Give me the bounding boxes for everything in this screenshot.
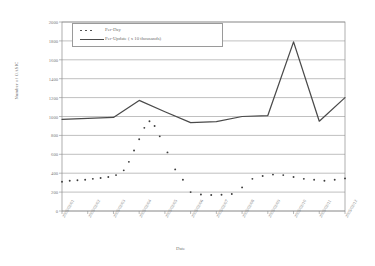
legend-item-per-day: Per-Day [79,26,121,35]
legend-label: Per-Day [105,28,121,33]
legend-item-per-update: Per-Update ( x 10 thousands) [79,35,161,44]
legend: Per-Day Per-Update ( x 10 thousands) [72,23,223,47]
chart-figure: Number of OASIC Date 2000180016001400120… [0,0,375,266]
legend-label: Per-Update ( x 10 thousands) [105,37,161,42]
dotted-line-icon [79,27,105,35]
solid-line-icon [79,36,105,44]
